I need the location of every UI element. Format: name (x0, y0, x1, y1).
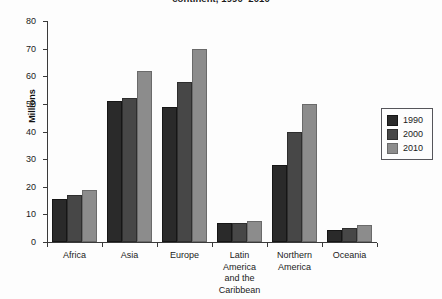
bar-group (107, 21, 152, 242)
y-tick-label: 30 (26, 154, 36, 164)
bar (67, 195, 82, 242)
bar (327, 230, 342, 242)
y-tick-label: 70 (26, 44, 36, 54)
bar (272, 165, 287, 242)
legend-swatch (387, 129, 398, 140)
bar-group (162, 21, 207, 242)
y-tick: 60 (43, 76, 47, 77)
category-label-line: and the (207, 273, 273, 285)
chart-title: continent, 1990–2010 (0, 0, 442, 4)
y-tick-label: 50 (26, 99, 36, 109)
legend-label: 1990 (403, 115, 423, 125)
category-label-line: America (262, 262, 328, 274)
x-tick (212, 243, 213, 247)
bar (107, 101, 122, 242)
y-tick: 10 (43, 214, 47, 215)
bar (357, 225, 372, 242)
bar (122, 98, 137, 242)
y-tick: 30 (43, 159, 47, 160)
y-axis-line (47, 21, 48, 243)
legend-swatch (387, 143, 398, 154)
legend-item: 2000 (387, 127, 428, 141)
bar (247, 221, 262, 242)
bar-group (217, 21, 262, 242)
y-tick: 70 (43, 49, 47, 50)
bar-group (327, 21, 372, 242)
y-tick: 80 (43, 21, 47, 22)
bar (52, 199, 67, 242)
bar (302, 104, 317, 242)
y-tick: 50 (43, 104, 47, 105)
bar-group (52, 21, 97, 242)
bar-chart-figure: continent, 1990–2010 Millions 0102030405… (0, 0, 442, 299)
bar (232, 223, 247, 242)
bar (287, 132, 302, 243)
plot-area: 01020304050607080 AfricaAsiaEuropeLatinA… (47, 21, 377, 243)
y-tick-label: 20 (26, 182, 36, 192)
bar (82, 190, 97, 242)
bar-group (272, 21, 317, 242)
legend: 199020002010 (381, 108, 433, 160)
y-tick-label: 40 (26, 127, 36, 137)
category-label: Oceania (317, 250, 383, 262)
legend-item: 1990 (387, 113, 428, 127)
x-tick (267, 243, 268, 247)
x-tick (47, 243, 48, 247)
y-tick-label: 10 (26, 209, 36, 219)
bar (192, 49, 207, 242)
x-tick (102, 243, 103, 247)
y-tick-label: 60 (26, 71, 36, 81)
bar (217, 223, 232, 242)
category-label-line: Caribbean (207, 285, 273, 297)
legend-label: 2010 (403, 143, 423, 153)
x-tick (322, 243, 323, 247)
category-label-line: Oceania (317, 250, 383, 262)
y-tick: 40 (43, 132, 47, 133)
bar (177, 82, 192, 242)
bar (137, 71, 152, 242)
legend-item: 2010 (387, 141, 428, 155)
y-tick-label: 80 (26, 16, 36, 26)
y-tick-label: 0 (31, 237, 36, 247)
bar (162, 107, 177, 242)
x-tick (377, 243, 378, 247)
y-tick: 20 (43, 187, 47, 188)
legend-swatch (387, 115, 398, 126)
legend-label: 2000 (403, 129, 423, 139)
bar (342, 228, 357, 242)
x-tick (157, 243, 158, 247)
